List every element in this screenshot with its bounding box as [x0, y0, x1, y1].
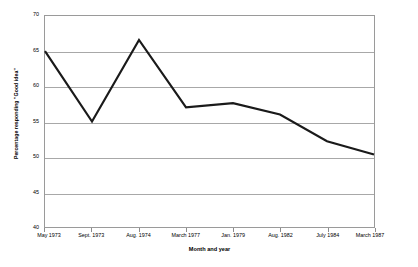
x-axis-tick-labels: May 1973Sept. 1973Aug. 1974March 1977Jan… [44, 233, 375, 245]
y-tick-label: 45 [18, 190, 42, 195]
x-tick-label: Aug. 1982 [268, 233, 293, 238]
x-axis-title: Month and year [44, 247, 375, 253]
x-tick-label: Jan. 1979 [221, 233, 245, 238]
y-tick-label: 65 [18, 48, 42, 53]
x-tick-label: March 1977 [172, 233, 200, 238]
series-polyline [45, 40, 374, 155]
data-series-line [45, 16, 374, 227]
x-tick-label: March 1987 [356, 233, 384, 238]
x-tick-label: July 1984 [316, 233, 339, 238]
x-tick-label: Sept. 1973 [78, 233, 104, 238]
y-tick-label: 60 [18, 83, 42, 88]
x-tick-label: May 1973 [37, 233, 61, 238]
y-tick-label: 70 [18, 12, 42, 17]
y-axis-tick-labels: 40455055606570 [18, 0, 42, 267]
y-tick-label: 40 [18, 225, 42, 230]
y-tick-label: 55 [18, 119, 42, 124]
plot-area [44, 15, 375, 228]
line-chart-figure: Percentage responding "Good idea" 404550… [0, 0, 418, 267]
y-tick-label: 50 [18, 154, 42, 159]
x-tick-label: Aug. 1974 [126, 233, 151, 238]
